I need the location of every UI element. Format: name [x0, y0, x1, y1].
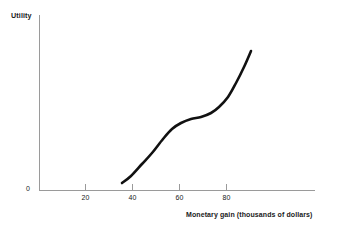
x-tick-label-40: 40 [129, 194, 137, 201]
utility-curve-figure: Utility Monetary gain (thousands of doll… [0, 0, 339, 232]
x-tick-label-80: 80 [223, 194, 231, 201]
utility-curve-line [122, 51, 251, 183]
x-axis-label: Monetary gain (thousands of dollars) [186, 211, 313, 218]
x-tick-label-20: 20 [82, 194, 90, 201]
origin-tick-label: 0 [26, 185, 30, 192]
x-tick-label-60: 60 [176, 194, 184, 201]
chart-canvas [0, 0, 339, 232]
y-axis-label: Utility [11, 12, 32, 19]
x-axis-ticks [86, 184, 227, 190]
